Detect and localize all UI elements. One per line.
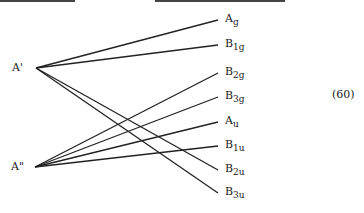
label-base: B: [225, 89, 233, 102]
right-node-label-B1u: B1u: [225, 139, 245, 150]
label-subscript: 3u: [233, 190, 245, 200]
label-base: B: [225, 138, 233, 151]
right-node-label-B2u: B2u: [225, 163, 245, 174]
label-base: B: [225, 162, 233, 175]
right-node-label-Au: Au: [225, 115, 239, 126]
label-subscript: u: [233, 119, 239, 129]
label-subscript: 1u: [233, 143, 245, 153]
left-node-label-A1: A': [12, 62, 23, 73]
edge-A1-Ag: [36, 20, 218, 68]
left-node-label-A2: A": [11, 161, 24, 172]
edge-A1-B1g: [36, 45, 218, 68]
edge-A2-Au: [35, 122, 218, 167]
label-base: B: [225, 65, 233, 78]
edge-A2-B2g: [35, 73, 218, 167]
label-base: B: [225, 185, 233, 198]
label-subscript: 1g: [233, 42, 245, 52]
right-node-label-Ag: Ag: [225, 13, 239, 24]
label-base: A: [225, 114, 233, 127]
right-node-label-B3g: B3g: [225, 90, 245, 101]
label-subscript: 3g: [233, 94, 245, 104]
label-base: A: [225, 12, 233, 25]
label-subscript: 2g: [233, 70, 245, 80]
right-node-label-B1g: B1g: [225, 38, 245, 49]
edge-group: [35, 20, 218, 193]
label-subscript: g: [233, 17, 239, 27]
label-base: B: [225, 37, 233, 50]
right-node-label-B2g: B2g: [225, 66, 245, 77]
label-subscript: 2u: [233, 167, 245, 177]
correlation-diagram: [0, 0, 364, 213]
right-node-label-B3u: B3u: [225, 186, 245, 197]
edge-A1-B2u: [36, 68, 218, 170]
equation-number: (60): [332, 89, 355, 100]
